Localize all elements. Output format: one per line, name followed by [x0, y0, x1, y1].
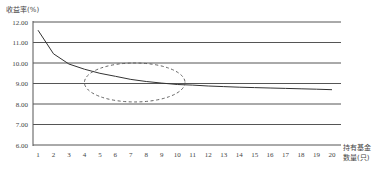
y-axis-label: 收益率(%) [6, 5, 39, 14]
line-chart: 收益率(%) 6.007.008.009.0010.0011.0012.00 1… [0, 0, 378, 171]
x-tick-label: 8 [145, 151, 149, 159]
y-axis-title: 收益率(%) [6, 5, 39, 14]
y-tick-label: 8.00 [16, 101, 29, 109]
x-tick-label: 15 [251, 151, 259, 159]
x-tick-label: 18 [298, 151, 306, 159]
x-tick-label: 20 [329, 151, 337, 159]
x-tick-label: 14 [236, 151, 244, 159]
x-tick-label: 11 [189, 151, 196, 159]
x-tick-label: 17 [282, 151, 290, 159]
x-tick-label: 16 [267, 151, 275, 159]
y-axis-ticks: 6.007.008.009.0010.0011.0012.00 [12, 19, 28, 150]
y-tick-label: 7.00 [16, 121, 29, 129]
x-axis-title-line: 数量(只) [343, 153, 370, 162]
y-tick-label: 12.00 [12, 19, 28, 27]
x-tick-label: 4 [83, 151, 87, 159]
x-tick-label: 5 [98, 151, 102, 159]
x-axis-label: 持有基金数量(只) [343, 143, 371, 162]
x-tick-label: 6 [114, 151, 118, 159]
x-axis-title-line: 持有基金 [343, 143, 371, 152]
y-tick-label: 10.00 [12, 60, 28, 68]
y-tick-label: 9.00 [16, 80, 29, 88]
x-tick-label: 13 [220, 151, 228, 159]
y-tick-label: 11.00 [13, 39, 29, 47]
x-tick-label: 19 [313, 151, 321, 159]
x-axis-ticks: 1234567891011121314151617181920 [36, 151, 336, 159]
x-tick-label: 1 [36, 151, 40, 159]
x-tick-label: 2 [52, 151, 56, 159]
x-tick-label: 10 [174, 151, 182, 159]
y-tick-label: 6.00 [16, 142, 29, 150]
x-tick-label: 9 [160, 151, 164, 159]
x-tick-label: 12 [205, 151, 213, 159]
dashed-ellipse-annotation [84, 63, 185, 102]
x-tick-label: 3 [67, 151, 71, 159]
x-tick-label: 7 [129, 151, 133, 159]
gridlines [33, 22, 341, 145]
